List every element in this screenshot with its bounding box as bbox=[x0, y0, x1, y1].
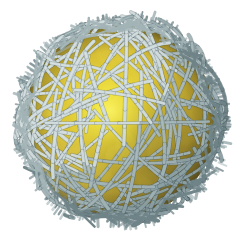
illustration-stage bbox=[0, 0, 241, 241]
fiber-coated-sphere-render bbox=[0, 0, 241, 241]
